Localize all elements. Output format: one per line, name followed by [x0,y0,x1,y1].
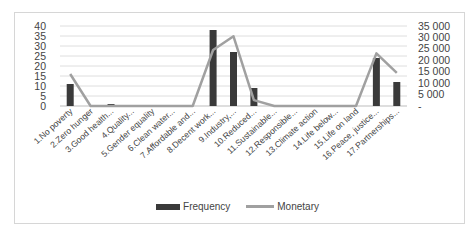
right-axis-tick: 15 000 [418,65,450,77]
chart-legend: Frequency Monetary [0,201,475,212]
left-axis-tick: 40 [34,20,46,32]
right-axis-tick: 25 000 [418,42,450,54]
legend-item-frequency: Frequency [156,201,230,212]
legend-item-monetary: Monetary [246,201,319,212]
monetary-swatch-icon [246,205,274,208]
frequency-bar [67,84,74,106]
right-axis-tick: 20 000 [418,54,450,66]
frequency-swatch-icon [156,204,180,210]
right-axis-tick: 30 000 [418,31,450,43]
right-axis-tick: 5 000 [418,88,444,100]
frequency-bar [210,30,217,106]
legend-label-frequency: Frequency [183,201,230,212]
right-axis-tick: - [418,100,422,112]
frequency-bar [230,52,237,106]
right-axis-tick: 10 000 [418,77,450,89]
right-axis-tick: 35 000 [418,20,450,32]
frequency-bar [373,58,380,106]
frequency-bar [393,82,400,106]
legend-label-monetary: Monetary [277,201,319,212]
